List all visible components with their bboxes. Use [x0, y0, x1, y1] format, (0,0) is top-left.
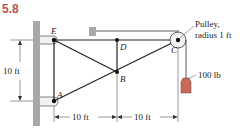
load-leader: [188, 75, 196, 79]
arrow-right-icon: [173, 115, 178, 119]
label-e: E: [50, 26, 57, 36]
pulley-radius-label: radius 1 ft: [195, 30, 232, 40]
joint-d: [115, 38, 119, 42]
joint-e: [52, 38, 56, 42]
label-a: A: [56, 90, 63, 100]
pulley-label: Pulley,: [195, 19, 220, 29]
arrow-up-icon: [18, 40, 22, 45]
arrow-left-icon: [54, 115, 59, 119]
cable-anchor-block: [89, 27, 96, 36]
arrow-down-icon: [18, 96, 22, 101]
joint-c: [176, 38, 180, 42]
label-c: C: [171, 45, 178, 55]
weight: [181, 78, 191, 93]
label-b: B: [120, 74, 126, 84]
dim-horizontal-right-label: 10 ft: [134, 112, 151, 122]
member-eb: [54, 40, 117, 72]
pulley-leader: [180, 26, 194, 38]
truss-diagram: E A D B C Pulley, radius 1 ft 100 lb 10 …: [0, 0, 248, 136]
label-d: D: [119, 42, 127, 52]
wall: [33, 21, 40, 126]
dim-vertical-label: 10 ft: [3, 66, 20, 76]
load-label: 100 lb: [198, 70, 221, 80]
arrow-left-icon: [117, 115, 122, 119]
arrow-right-icon: [112, 115, 117, 119]
joint-a: [52, 99, 56, 103]
dim-horizontal-left-label: 10 ft: [72, 112, 89, 122]
joint-b: [115, 70, 119, 74]
